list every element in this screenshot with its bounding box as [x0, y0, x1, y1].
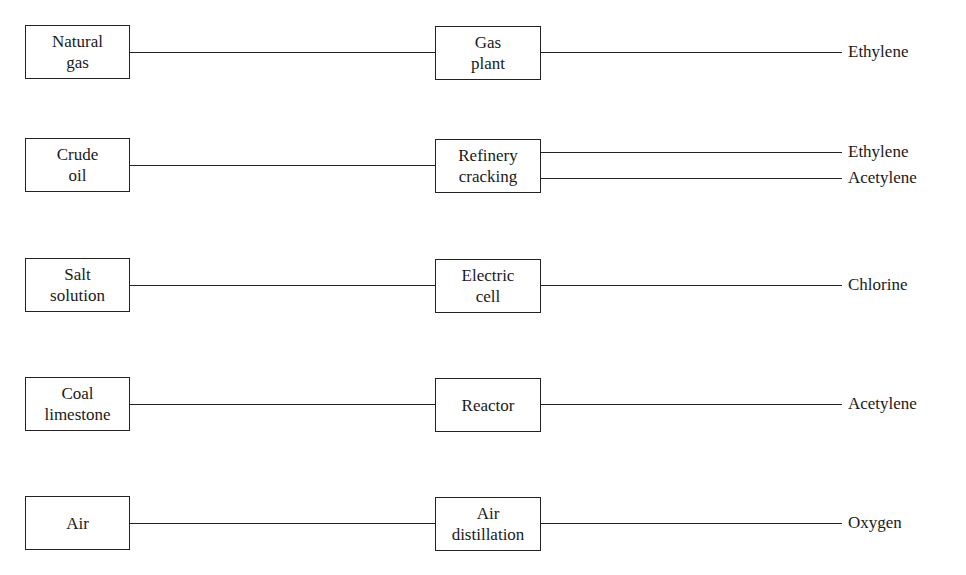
output-line [541, 152, 842, 153]
output-line [541, 523, 842, 524]
output-label: Acetylene [848, 168, 917, 188]
connector-line [130, 404, 435, 405]
source-box: Saltsolution [25, 258, 130, 312]
output-label: Chlorine [848, 275, 908, 295]
connector-line [130, 523, 435, 524]
source-box: Air [25, 496, 130, 550]
source-box: Coallimestone [25, 377, 130, 431]
output-line [541, 285, 842, 286]
output-label: Oxygen [848, 513, 902, 533]
process-box: Gasplant [435, 26, 541, 80]
output-line [541, 404, 842, 405]
source-box: Naturalgas [25, 25, 130, 79]
output-label: Acetylene [848, 394, 917, 414]
connector-line [130, 165, 435, 166]
source-box: Crudeoil [25, 138, 130, 192]
output-line [541, 52, 842, 53]
output-label: Ethylene [848, 142, 908, 162]
process-box: Electriccell [435, 259, 541, 313]
connector-line [130, 52, 435, 53]
output-line [541, 178, 842, 179]
output-label: Ethylene [848, 42, 908, 62]
process-box: Airdistillation [435, 497, 541, 551]
process-box: Reactor [435, 378, 541, 432]
process-box: Refinerycracking [435, 139, 541, 193]
connector-line [130, 285, 435, 286]
